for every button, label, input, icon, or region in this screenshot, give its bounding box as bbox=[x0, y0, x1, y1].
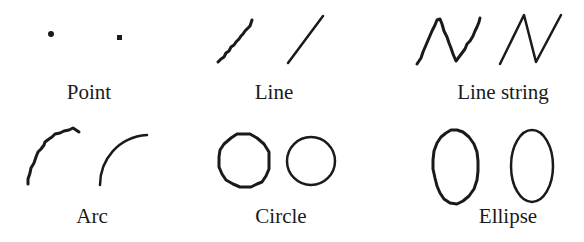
rough-arc-icon bbox=[28, 128, 79, 184]
ellipse-label: Ellipse bbox=[479, 206, 537, 227]
smooth-line-icon bbox=[288, 16, 323, 63]
smooth-point-icon bbox=[117, 35, 122, 40]
line-string-label: Line string bbox=[457, 82, 549, 103]
line-shapes bbox=[218, 16, 323, 63]
smooth-line-string-icon bbox=[500, 15, 561, 64]
smooth-arc-icon bbox=[100, 135, 147, 185]
point-shapes bbox=[48, 31, 122, 40]
smooth-circle-icon bbox=[287, 137, 335, 185]
circle-label: Circle bbox=[255, 206, 306, 227]
smooth-ellipse-icon bbox=[511, 130, 553, 202]
rough-ellipse-icon bbox=[433, 130, 478, 204]
rough-point-icon bbox=[48, 31, 54, 37]
rough-line-icon bbox=[218, 20, 252, 62]
point-label: Point bbox=[67, 82, 111, 103]
circle-shapes bbox=[219, 134, 335, 187]
arc-shapes bbox=[28, 128, 147, 185]
line-label: Line bbox=[255, 82, 293, 103]
rough-circle-icon bbox=[219, 134, 269, 187]
arc-label: Arc bbox=[76, 206, 107, 227]
line-string-shapes bbox=[417, 15, 561, 64]
ellipse-shapes bbox=[433, 130, 553, 204]
rough-line-string-icon bbox=[417, 18, 480, 64]
